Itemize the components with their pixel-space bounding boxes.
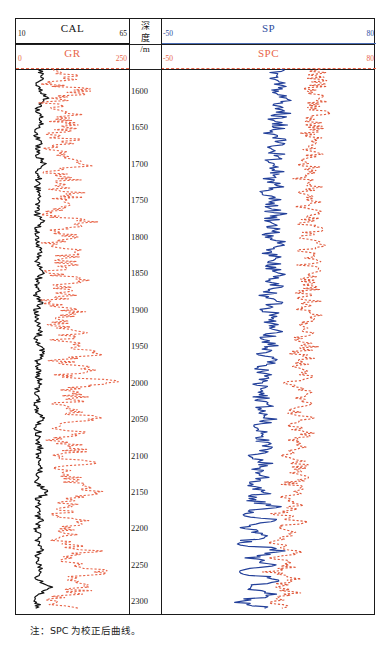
depth-axis-column: 1600165017001750180018501900195020002050… — [129, 69, 161, 614]
depth-header-line3: /m — [129, 44, 161, 56]
depth-tick-label: 2300 — [131, 596, 148, 606]
depth-tick-label: 2050 — [131, 414, 148, 424]
depth-tick-label: 1750 — [131, 195, 148, 205]
depth-tick-label: 1900 — [131, 305, 148, 315]
log-frame: 10 CAL 65 -50 SP 80 0 GR 250 -50 SP — [15, 18, 375, 615]
depth-tick-label: 1650 — [131, 122, 148, 132]
cal-scale-max: 65 — [120, 29, 128, 38]
well-log-figure: 10 CAL 65 -50 SP 80 0 GR 250 -50 SP — [0, 0, 391, 648]
track-left-curves — [16, 69, 129, 614]
divider-left-track — [129, 19, 130, 614]
depth-tick-label: 1800 — [131, 232, 148, 242]
depth-tick-label: 2100 — [131, 451, 148, 461]
cal-curve-label: CAL — [16, 22, 129, 34]
log-body: 1600165017001750180018501900195020002050… — [16, 69, 374, 614]
depth-axis-header: 深 度 /m — [129, 19, 161, 69]
depth-header-line1: 深 — [129, 21, 161, 33]
curve-sp — [235, 69, 291, 608]
depth-header-line2: 度 — [129, 33, 161, 45]
depth-tick-label: 1600 — [131, 86, 148, 96]
track-right-curves — [161, 69, 376, 614]
sp-scale-max: 80 — [367, 29, 375, 38]
depth-tick-label: 1700 — [131, 159, 148, 169]
depth-tick-label: 2200 — [131, 523, 148, 533]
header-row-primary: 10 CAL 65 -50 SP 80 — [16, 19, 374, 44]
gr-curve-label: GR — [16, 47, 129, 59]
header-cell-cal: 10 CAL 65 — [16, 19, 129, 44]
depth-tick-label: 2000 — [131, 378, 148, 388]
sp-curve-label: SP — [161, 22, 376, 34]
depth-tick-label: 2250 — [131, 560, 148, 570]
curve-gr — [39, 69, 118, 608]
depth-tick-label: 1850 — [131, 268, 148, 278]
curve-track-right — [161, 69, 376, 614]
depth-tick-label: 2150 — [131, 487, 148, 497]
figure-caption: 注：SPC 为校正后曲线。 — [30, 623, 141, 637]
spc-curve-label: SPC — [161, 47, 376, 59]
spc-scale-max: 80 — [367, 54, 375, 63]
curve-track-left — [16, 69, 129, 614]
divider-depth-column — [161, 19, 162, 614]
depth-tick-label: 1950 — [131, 341, 148, 351]
header-cell-sp: -50 SP 80 — [161, 19, 376, 44]
gr-scale-max: 250 — [116, 54, 127, 63]
header-row-secondary: 0 GR 250 -50 SPC 80 — [16, 44, 374, 69]
header-cell-spc: -50 SPC 80 — [161, 44, 376, 69]
header-cell-gr: 0 GR 250 — [16, 44, 129, 69]
